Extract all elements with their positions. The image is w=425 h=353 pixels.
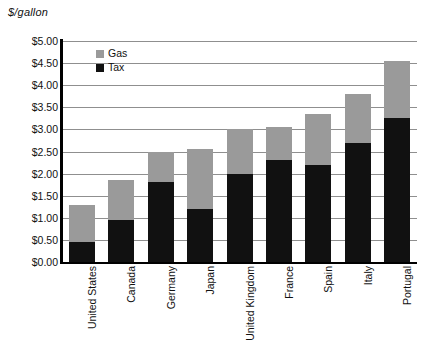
x-axis-label-japan: Japan bbox=[204, 266, 216, 295]
bar-segment-tax[interactable] bbox=[266, 160, 292, 262]
x-axis-category-labels: United StatesCanadaGermanyJapanUnited Ki… bbox=[62, 266, 417, 352]
x-axis-label-germany: Germany bbox=[165, 266, 177, 309]
legend-item[interactable]: Tax bbox=[96, 61, 127, 74]
legend-item[interactable]: Gas bbox=[96, 47, 127, 60]
bar-segment-tax[interactable] bbox=[227, 174, 253, 262]
bar-group[interactable] bbox=[305, 41, 331, 262]
y-axis-unit-title: $/gallon bbox=[8, 6, 48, 18]
x-axis-label-united-states: United States bbox=[86, 266, 98, 329]
x-axis-label-france: France bbox=[283, 266, 295, 299]
y-axis-tick-label: $5.00 bbox=[4, 35, 58, 47]
x-axis-label-italy: Italy bbox=[362, 266, 374, 285]
chart-legend: GasTax bbox=[96, 47, 127, 75]
y-axis-tick-label: $3.50 bbox=[4, 101, 58, 113]
x-axis-label-canada: Canada bbox=[125, 266, 137, 303]
y-axis-tick-label: $4.00 bbox=[4, 79, 58, 91]
legend-swatch-tax-icon bbox=[96, 64, 104, 72]
bar-group[interactable] bbox=[345, 41, 371, 262]
legend-label: Gas bbox=[108, 47, 127, 60]
bar-segment-gas[interactable] bbox=[69, 205, 95, 243]
bar-segment-gas[interactable] bbox=[108, 180, 134, 220]
bar-segment-gas[interactable] bbox=[266, 127, 292, 160]
gridline bbox=[62, 262, 417, 264]
bar-segment-gas[interactable] bbox=[227, 129, 253, 173]
bar-segment-tax[interactable] bbox=[108, 220, 134, 262]
y-axis-tick-label: $3.00 bbox=[4, 123, 58, 135]
bar-group[interactable] bbox=[148, 41, 174, 262]
y-axis-tick-label: $1.00 bbox=[4, 212, 58, 224]
bar-segment-tax[interactable] bbox=[69, 242, 95, 262]
y-axis-tick-label: $1.50 bbox=[4, 190, 58, 202]
bar-segment-gas[interactable] bbox=[148, 152, 174, 183]
y-axis-tick-label: $0.00 bbox=[4, 256, 58, 268]
y-axis-tick-labels: $5.00$4.50$4.00$3.50$3.00$2.50$2.00$1.50… bbox=[0, 41, 58, 262]
bar-group[interactable] bbox=[187, 41, 213, 262]
bar-segment-tax[interactable] bbox=[384, 118, 410, 262]
stacked-bar-chart: $/gallon $5.00$4.50$4.00$3.50$3.00$2.50$… bbox=[0, 0, 425, 353]
bar-segment-tax[interactable] bbox=[345, 143, 371, 262]
y-axis-tick-label: $2.50 bbox=[4, 146, 58, 158]
y-axis-tick-label: $2.00 bbox=[4, 168, 58, 180]
bar-segment-gas[interactable] bbox=[305, 114, 331, 165]
x-axis-label-portugal: Portugal bbox=[401, 266, 413, 305]
bar-group[interactable] bbox=[384, 41, 410, 262]
y-axis-tick-label: $0.50 bbox=[4, 234, 58, 246]
bar-segment-tax[interactable] bbox=[305, 165, 331, 262]
bar-group[interactable] bbox=[266, 41, 292, 262]
x-axis-label-spain: Spain bbox=[322, 266, 334, 293]
x-axis-label-united-kingdom: United Kingdom bbox=[244, 266, 256, 341]
legend-swatch-gas-icon bbox=[96, 50, 104, 58]
bar-segment-tax[interactable] bbox=[187, 209, 213, 262]
bar-segment-tax[interactable] bbox=[148, 182, 174, 262]
bar-group[interactable] bbox=[69, 41, 95, 262]
legend-label: Tax bbox=[108, 61, 124, 74]
bar-segment-gas[interactable] bbox=[384, 61, 410, 118]
y-axis-tick-label: $4.50 bbox=[4, 57, 58, 69]
bar-segment-gas[interactable] bbox=[345, 94, 371, 143]
bar-segment-gas[interactable] bbox=[187, 149, 213, 209]
bar-group[interactable] bbox=[227, 41, 253, 262]
